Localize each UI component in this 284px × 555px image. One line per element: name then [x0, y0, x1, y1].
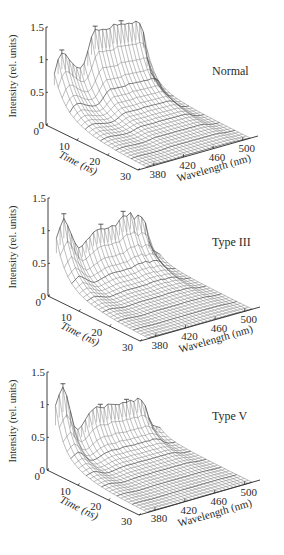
wavelength-tick-label: 380 [152, 339, 169, 351]
z-tick-label: 0 [40, 464, 46, 476]
time-tick-label: 30 [121, 515, 133, 527]
panel-title: Normal [212, 64, 249, 78]
panel-title: Type V [212, 409, 248, 423]
time-tick-label: 30 [120, 170, 132, 182]
time-tick-label: 0 [35, 470, 41, 482]
z-axis-label: Intensity (rel. units) [7, 205, 19, 289]
chart-panel-normal: 00.511.50102030380420460500 Normal Inten… [7, 21, 258, 185]
panel-title: Type III [212, 235, 251, 249]
chart-panel-type-iii: 00.511.50102030380420460500 Type III Int… [7, 192, 260, 356]
time-axis-label: Time (ns) [58, 493, 101, 523]
z-tick-label: 1 [40, 398, 46, 410]
z-tick-label: 0 [41, 290, 47, 302]
z-tick-label: 1 [41, 224, 47, 236]
z-tick-label: 0.5 [31, 431, 45, 443]
figure: 00.511.50102030380420460500 Normal Inten… [0, 0, 284, 555]
time-axis-label: Time (ns) [57, 148, 100, 178]
z-tick-label: 1.5 [32, 192, 46, 204]
wavelength-tick-label: 380 [151, 512, 168, 524]
z-axis-label: Intensity (rel. units) [7, 34, 19, 118]
z-tick-label: 1.5 [31, 366, 45, 378]
surface-mesh [56, 211, 252, 338]
time-tick-label: 0 [34, 125, 40, 137]
wavelength-tick-label: 380 [150, 168, 167, 180]
z-tick-label: 1.5 [30, 21, 44, 33]
z-tick-label: 1 [39, 53, 45, 65]
surface-mesh [55, 384, 252, 512]
surface-mesh [54, 21, 250, 167]
time-tick-label: 30 [122, 341, 134, 353]
z-axis-label: Intensity (rel. units) [7, 379, 19, 463]
chart-panel-type-v: 00.511.50102030380420460500 Type V Inten… [7, 366, 260, 530]
z-tick-label: 0 [39, 119, 45, 131]
time-axis-label: Time (ns) [59, 319, 102, 349]
time-tick-label: 0 [36, 296, 42, 308]
z-tick-label: 0.5 [32, 257, 46, 269]
z-tick-label: 0.5 [30, 86, 44, 98]
